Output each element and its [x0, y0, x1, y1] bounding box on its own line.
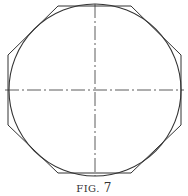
caption-prefix: FIG.	[76, 183, 100, 194]
octagon-circle-diagram	[0, 0, 188, 196]
octagon	[8, 6, 181, 173]
figure-caption: FIG. 7	[0, 181, 188, 195]
caption-number: 7	[104, 181, 112, 195]
